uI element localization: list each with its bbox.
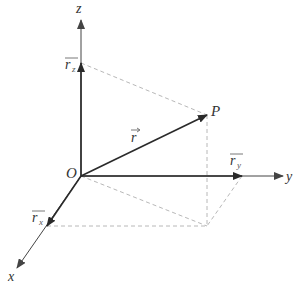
component-vectors [47,63,242,226]
dash-rz-to-p [81,63,207,115]
axes [17,20,283,268]
vector-diagram: z y x O P r r z r y r x [0,0,295,286]
vector-ry-base: r [230,153,236,168]
vector-rz-label: r z [65,57,78,74]
vector-ry-sub: y [236,160,241,170]
y-axis-label: y [284,169,293,184]
z-axis-label: z [75,1,82,16]
vector-r-label: r [131,130,139,145]
dash-ry-to-base [207,176,242,226]
vector-ry-label: r y [230,153,243,170]
dash-origin-to-base [81,176,207,226]
vector-rx [47,176,81,226]
vector-rz-base: r [65,57,71,72]
point-p-label: P [210,103,220,119]
vector-rx-sub: x [38,217,43,227]
vector-rz-sub: z [71,64,76,74]
vector-rx-label: r x [32,210,45,227]
x-axis-label: x [7,269,15,284]
vector-rx-base: r [32,210,38,225]
vector-r-text: r [131,130,137,145]
origin-label: O [66,165,77,181]
vector-r [81,115,207,176]
